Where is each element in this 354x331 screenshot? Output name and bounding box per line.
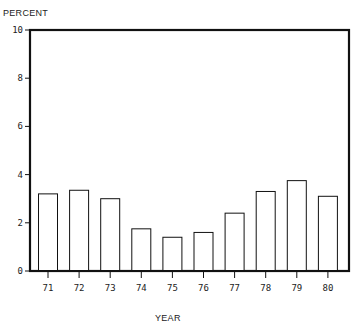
bar-chart: 024681071727374757677787980: [0, 0, 354, 331]
x-tick-label: 71: [43, 283, 54, 293]
y-tick-label: 8: [18, 73, 23, 83]
x-tick-label: 79: [291, 283, 302, 293]
bar: [256, 191, 275, 271]
bar: [163, 237, 182, 271]
x-tick-label: 77: [229, 283, 240, 293]
y-tick-label: 4: [18, 170, 23, 180]
bar: [225, 213, 244, 271]
x-tick-label: 72: [74, 283, 85, 293]
y-tick-label: 6: [18, 121, 23, 131]
bar: [70, 190, 89, 271]
x-tick-label: 73: [105, 283, 116, 293]
y-tick-label: 0: [18, 266, 23, 276]
bar: [101, 199, 120, 271]
x-tick-label: 80: [322, 283, 333, 293]
bar: [39, 194, 58, 271]
y-tick-label: 10: [12, 25, 23, 35]
x-tick-label: 76: [198, 283, 209, 293]
x-tick-label: 74: [136, 283, 147, 293]
x-tick-label: 75: [167, 283, 178, 293]
y-tick-label: 2: [18, 218, 23, 228]
bar: [132, 229, 151, 271]
x-tick-label: 78: [260, 283, 271, 293]
bar: [318, 196, 337, 271]
bar: [194, 232, 213, 271]
bar: [287, 181, 306, 271]
